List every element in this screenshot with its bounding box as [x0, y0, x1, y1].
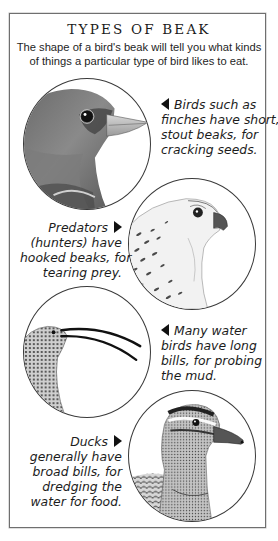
intro-text: The shape of a bird's beak will tell you… [16, 40, 262, 68]
caption-line: tearing prey. [20, 265, 122, 280]
caption-line: dredging the [20, 479, 122, 494]
caption-line: water for food. [20, 494, 122, 509]
caption-line: broad bills, for [20, 464, 122, 479]
finch-caption: Birds such as finches have short, stout … [161, 97, 278, 157]
caption-line: Predators [20, 220, 122, 235]
pointer-left-icon [161, 324, 169, 336]
pointer-left-icon [161, 98, 169, 110]
caption-line: finches have short, [161, 112, 278, 127]
falcon-caption: Predators (hunters) have hooked beaks, f… [20, 220, 122, 280]
caption-line: birds have long [161, 338, 262, 353]
curlew-caption: Many water birds have long bills, for pr… [161, 323, 262, 383]
caption-line: stout beaks, for [161, 127, 278, 142]
pointer-right-icon [114, 435, 122, 447]
duck-head-illustration [129, 391, 255, 521]
caption-line: (hunters) have [20, 235, 122, 250]
caption-line: hooked beaks, for [20, 250, 122, 265]
caption-line: generally have [20, 449, 122, 464]
caption-line: Ducks [20, 434, 122, 449]
page-title: TYPES OF BEAK [0, 21, 278, 37]
duck-illustration [128, 390, 256, 522]
caption-line: Many water [161, 323, 262, 338]
duck-caption: Ducks generally have broad bills, for dr… [20, 434, 122, 509]
caption-line: cracking seeds. [161, 142, 278, 157]
pointer-right-icon [114, 221, 122, 233]
caption-line: bills, for probing [161, 353, 262, 368]
caption-line: the mud. [161, 368, 262, 383]
caption-line: Birds such as [161, 97, 278, 112]
